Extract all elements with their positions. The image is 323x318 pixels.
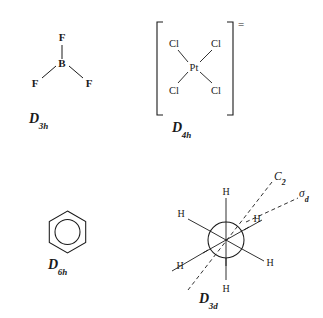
atom-label-f-top: F [59,31,66,43]
bond-pt-cl-bottom-left [178,72,188,83]
atom-label-cl-bottom-left: Cl [169,85,179,96]
symmetry-letter-sigma-d: σ [299,187,305,199]
atom-label-f-right: F [86,77,93,89]
point-group-label-d4h: D4h [172,121,192,138]
boron-trifluoride-structure: F B F F [0,0,150,150]
point-group-subscript-d3h: 3h [39,121,49,131]
atom-label-cl-top-right: Cl [211,38,221,49]
point-group-letter-d6h: D [48,257,58,272]
bond-front-h-upper-left [188,219,210,231]
atom-label-pt-center: Pt [190,62,199,73]
bond-front-stub-lower-right [226,240,242,249]
symmetry-subscript-sigma-d: d [305,195,309,204]
molecule-panel-benzene [20,190,130,290]
symmetry-letter-c2: C [274,170,282,182]
charge-label: = [238,18,244,30]
atom-label-h-upper-left: H [177,208,184,219]
atom-label-h-upper-right: H [253,213,260,224]
bond-b-f-left [42,66,56,78]
figure-canvas: F B F F D3h Cl Cl Pt Cl Cl = [0,0,323,318]
bond-b-f-right [69,66,83,78]
atom-label-f-left: F [32,77,39,89]
point-group-label-d3d: D3d [199,292,218,309]
molecule-panel-ethane-newman: H H H H H H [150,160,323,318]
atom-label-h-lower-left: H [176,260,183,271]
molecule-panel-boron-trifluoride: F B F F [0,0,150,150]
bond-front-h-lower-right [242,249,264,261]
bracket-right [227,22,233,115]
ethane-newman-structure: H H H H H H [150,160,323,318]
bond-pt-cl-bottom-right [200,72,212,83]
point-group-subscript-d4h: 4h [182,130,192,140]
point-group-label-d3h: D3h [29,112,49,129]
symmetry-label-c2: C2 [274,171,286,185]
atom-label-b-center: B [58,57,66,69]
benzene-structure [20,190,130,290]
bond-front-stub-upper-left [210,231,226,240]
atom-label-h-lower-right: H [266,257,273,268]
bond-pt-cl-top-left [178,50,188,62]
point-group-letter-d3d: D [199,291,209,306]
symmetry-subscript-c2: 2 [282,178,286,187]
atom-label-h-bottom: H [222,283,229,294]
atom-label-cl-top-left: Cl [169,38,179,49]
c2-axis-line [188,182,272,290]
point-group-subscript-d3d: 3d [209,301,218,311]
point-group-subscript-d6h: 6h [58,267,68,277]
bracket-left [157,22,163,115]
symmetry-label-sigma-d: σd [299,188,309,202]
point-group-letter-d3h: D [29,111,39,126]
atom-label-cl-bottom-right: Cl [211,85,221,96]
benzene-aromatic-circle [55,220,80,245]
bond-pt-cl-top-right [200,50,212,62]
point-group-label-d6h: D6h [48,258,68,275]
point-group-letter-d4h: D [172,120,182,135]
atom-label-h-top: H [222,186,229,197]
